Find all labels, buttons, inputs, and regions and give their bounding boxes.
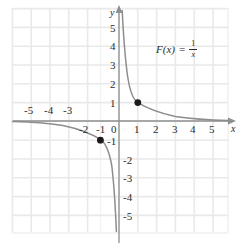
y-tick-neg4: -4 <box>123 192 132 203</box>
x-tick-neg5: -5 <box>24 105 33 116</box>
x-tick-3: 3 <box>172 124 178 135</box>
x-tick-origin: 0 <box>111 124 117 135</box>
x-tick-2: 2 <box>153 124 159 135</box>
x-axis-label: x <box>231 124 235 134</box>
x-tick-neg4: -4 <box>44 105 53 116</box>
y-axis-label: y <box>110 8 114 18</box>
fraction-one-over-x: 1 x <box>189 40 197 60</box>
y-tick-2: 2 <box>110 79 116 90</box>
function-annotation: F(x) = 1 x <box>156 40 197 60</box>
point-1-1 <box>134 99 141 106</box>
y-tick-5: 5 <box>110 23 116 34</box>
x-tick-5: 5 <box>209 124 215 135</box>
x-tick-neg2: -2 <box>79 124 88 135</box>
function-name: F(x) <box>156 44 175 55</box>
y-tick-neg1: -1 <box>107 136 116 147</box>
fraction-numerator: 1 <box>189 40 197 48</box>
y-tick-neg2: -2 <box>123 155 132 166</box>
x-tick-1: 1 <box>134 124 140 135</box>
function-graph-figure: y x -5 -4 -3 -2 -1 0 1 2 3 4 5 1 2 3 4 5… <box>0 0 243 248</box>
y-tick-1: 1 <box>110 98 116 109</box>
x-tick-neg3: -3 <box>63 105 72 116</box>
x-tick-neg1: -1 <box>96 124 105 135</box>
x-tick-4: 4 <box>190 124 196 135</box>
y-tick-3: 3 <box>110 60 116 71</box>
fraction-denominator: x <box>189 51 197 59</box>
point-neg1-neg1 <box>97 137 104 144</box>
y-tick-4: 4 <box>110 41 116 52</box>
equals-sign: = <box>179 44 185 55</box>
graph-canvas <box>0 0 243 248</box>
y-tick-neg5: -5 <box>123 211 132 222</box>
y-tick-neg3: -3 <box>123 173 132 184</box>
